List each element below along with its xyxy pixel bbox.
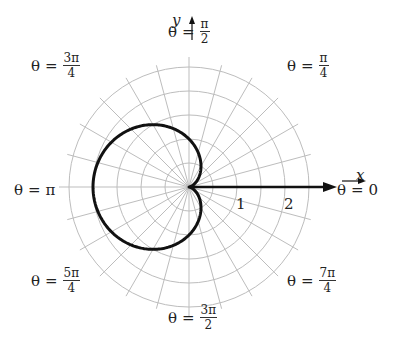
grid-spoke bbox=[80, 187, 189, 250]
angle-fraction: 7π4 bbox=[319, 267, 337, 294]
equals-sign: = bbox=[301, 57, 314, 75]
angle-label-pi-2: θ=π2 bbox=[168, 18, 210, 45]
fraction-numerator: 3π bbox=[200, 304, 218, 318]
angle-fraction: π2 bbox=[200, 18, 210, 45]
fraction-denominator: 2 bbox=[201, 32, 209, 45]
polar-axis-arrowhead-icon bbox=[323, 182, 337, 192]
fraction-denominator: 4 bbox=[68, 281, 76, 294]
equals-sign: = bbox=[182, 23, 195, 41]
grid-spoke bbox=[189, 124, 298, 187]
angle-fraction: 3π2 bbox=[200, 304, 218, 331]
theta-symbol: θ bbox=[287, 57, 296, 75]
equals-sign: = bbox=[351, 181, 364, 199]
radial-tick-2: 2 bbox=[284, 195, 294, 213]
fraction-numerator: 5π bbox=[63, 267, 81, 281]
equals-sign: = bbox=[45, 272, 58, 290]
theta-symbol: θ bbox=[168, 23, 177, 41]
angle-label-3pi-4: θ=3π4 bbox=[31, 52, 80, 79]
theta-symbol: θ bbox=[287, 272, 296, 290]
grid-spoke bbox=[189, 98, 278, 187]
angle-label-3pi-2: θ=3π2 bbox=[168, 304, 217, 331]
angle-label-0: θ=0 bbox=[337, 181, 378, 199]
fraction-numerator: 3π bbox=[63, 52, 81, 66]
theta-symbol: θ bbox=[31, 57, 40, 75]
fraction-numerator: 7π bbox=[319, 267, 337, 281]
fraction-denominator: 2 bbox=[205, 318, 213, 331]
fraction-denominator: 4 bbox=[324, 281, 332, 294]
theta-symbol: θ bbox=[31, 272, 40, 290]
fraction-numerator: π bbox=[200, 18, 210, 32]
grid-spoke bbox=[189, 78, 252, 187]
angle-label-pi: θ=π bbox=[14, 181, 55, 199]
angle-fraction: 5π4 bbox=[63, 267, 81, 294]
theta-symbol: θ bbox=[168, 309, 177, 327]
angle-label-pi-4: θ=π4 bbox=[287, 52, 329, 79]
fraction-denominator: 4 bbox=[320, 66, 328, 79]
angle-fraction: π4 bbox=[319, 52, 329, 79]
equals-sign: = bbox=[182, 309, 195, 327]
equals-sign: = bbox=[45, 57, 58, 75]
equals-sign: = bbox=[28, 181, 41, 199]
angle-label-7pi-4: θ=7π4 bbox=[287, 267, 336, 294]
equals-sign: = bbox=[301, 272, 314, 290]
grid-spoke bbox=[80, 124, 189, 187]
theta-symbol: θ bbox=[337, 181, 346, 199]
theta-symbol: θ bbox=[14, 181, 23, 199]
radial-tick-1: 1 bbox=[236, 195, 246, 213]
angle-label-5pi-4: θ=5π4 bbox=[31, 267, 80, 294]
fraction-numerator: π bbox=[319, 52, 329, 66]
angle-value: π bbox=[46, 181, 56, 199]
fraction-denominator: 4 bbox=[68, 66, 76, 79]
grid-spoke bbox=[189, 187, 278, 276]
axes bbox=[189, 16, 366, 192]
angle-value: 0 bbox=[369, 181, 379, 199]
angle-fraction: 3π4 bbox=[63, 52, 81, 79]
